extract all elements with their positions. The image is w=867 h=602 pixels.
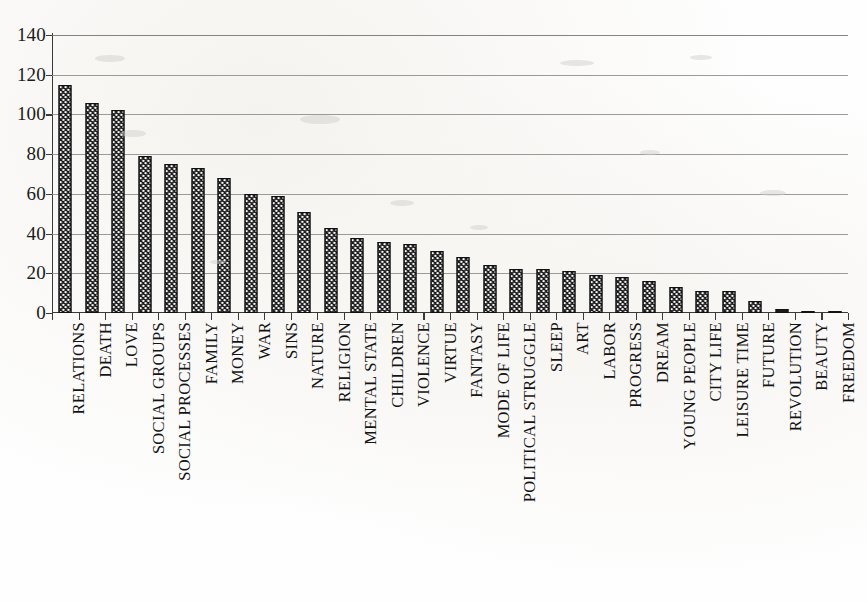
bar xyxy=(775,309,788,313)
x-axis-tick xyxy=(609,313,610,320)
bar xyxy=(430,251,443,313)
bar-slot xyxy=(768,35,795,313)
x-axis-tick xyxy=(291,313,292,320)
plot-area xyxy=(52,35,848,313)
bar xyxy=(510,269,523,313)
bar xyxy=(669,287,682,313)
category-label: CITY LIFE xyxy=(708,322,725,402)
category-label-text: WAR xyxy=(257,322,274,360)
category-label: VIOLENCE xyxy=(416,322,433,407)
bar-slot xyxy=(291,35,318,313)
category-label: SOCIAL PROCESSES xyxy=(177,322,194,481)
category-label: ART xyxy=(575,322,592,355)
bar xyxy=(191,168,204,313)
bar-slot xyxy=(636,35,663,313)
bar-slot xyxy=(370,35,397,313)
bar xyxy=(85,103,98,313)
category-label: RELIGION xyxy=(337,322,354,402)
y-axis-tick-label: 120 xyxy=(0,65,46,84)
category-label: BEAUTY xyxy=(814,322,831,391)
bar-slot xyxy=(583,35,610,313)
category-label: FUTURE xyxy=(761,322,778,388)
category-label-text: DREAM xyxy=(655,322,672,383)
category-label: FREEDOM xyxy=(841,322,858,403)
x-axis-tick xyxy=(264,313,265,320)
bar xyxy=(722,291,735,313)
category-label-text: LABOR xyxy=(602,322,619,379)
bar-slot xyxy=(821,35,848,313)
y-axis-tick-label: 60 xyxy=(0,184,46,203)
y-axis-tick-label: 80 xyxy=(0,144,46,163)
bar xyxy=(404,244,417,314)
bar xyxy=(563,271,576,313)
bar-slot xyxy=(132,35,159,313)
bar xyxy=(828,311,841,313)
bar-slot xyxy=(795,35,822,313)
bar-slot xyxy=(317,35,344,313)
y-axis-labels: 020406080100120140 xyxy=(0,0,46,602)
x-axis-tick xyxy=(768,313,769,320)
bar xyxy=(165,164,178,313)
bar-slot xyxy=(503,35,530,313)
category-label-text: CHILDREN xyxy=(390,322,407,408)
bar-series xyxy=(52,35,848,313)
category-label: VIRTUE xyxy=(443,322,460,383)
bar-slot xyxy=(238,35,265,313)
bar-slot xyxy=(556,35,583,313)
category-label-text: REVOLUTION xyxy=(788,322,805,431)
bar xyxy=(616,277,629,313)
x-axis-tick xyxy=(397,313,398,320)
bar-slot xyxy=(397,35,424,313)
category-label: SLEEP xyxy=(549,322,566,372)
bar xyxy=(696,291,709,313)
category-label: LEISURE TIME xyxy=(735,322,752,438)
category-label-text: BEAUTY xyxy=(814,322,831,391)
category-label: LOVE xyxy=(124,322,141,367)
x-axis-tick xyxy=(105,313,106,320)
bar-slot xyxy=(344,35,371,313)
category-label-text: PROGRESS xyxy=(628,322,645,408)
bar xyxy=(457,257,470,313)
bar xyxy=(749,301,762,313)
category-label-text: RELIGION xyxy=(337,322,354,402)
x-axis-tick xyxy=(848,313,849,320)
y-axis-tick-label: 0 xyxy=(0,303,46,322)
bar xyxy=(351,238,364,313)
bar xyxy=(138,156,151,313)
category-label: SOCIAL GROUPS xyxy=(151,322,168,454)
category-label: DEATH xyxy=(98,322,115,378)
category-label: POLITICAL STRUGGLE xyxy=(522,322,539,502)
x-axis-tick xyxy=(317,313,318,320)
category-label-text: FANTASY xyxy=(469,322,486,398)
x-axis-tick xyxy=(344,313,345,320)
category-label-text: MONEY xyxy=(230,322,247,384)
bar xyxy=(324,228,337,313)
x-axis-tick xyxy=(211,313,212,320)
x-axis-tick xyxy=(185,313,186,320)
bar xyxy=(271,196,284,313)
category-label-text: RELATIONS xyxy=(71,322,88,415)
category-label: FAMILY xyxy=(204,322,221,384)
bar-slot xyxy=(609,35,636,313)
bar xyxy=(218,178,231,313)
x-axis-tick xyxy=(821,313,822,320)
x-axis-tick xyxy=(556,313,557,320)
bar xyxy=(802,311,815,313)
bar-slot xyxy=(450,35,477,313)
category-label-text: FREEDOM xyxy=(841,322,858,403)
x-axis-tick xyxy=(52,313,53,320)
bar-chart: 020406080100120140 RELATIONSDEATHLOVESOC… xyxy=(0,0,867,602)
bar xyxy=(589,275,602,313)
category-label: NATURE xyxy=(310,322,327,389)
bar-slot xyxy=(689,35,716,313)
x-axis-tick xyxy=(715,313,716,320)
bar xyxy=(483,265,496,313)
x-axis-tick xyxy=(742,313,743,320)
category-label-text: SOCIAL PROCESSES xyxy=(177,322,194,481)
category-label-text: YOUNG PEOPLE xyxy=(682,322,699,450)
bar-slot xyxy=(477,35,504,313)
category-label: MENTAL STATE xyxy=(363,322,380,445)
x-axis-tick xyxy=(503,313,504,320)
bar-slot xyxy=(423,35,450,313)
bar xyxy=(112,110,125,313)
